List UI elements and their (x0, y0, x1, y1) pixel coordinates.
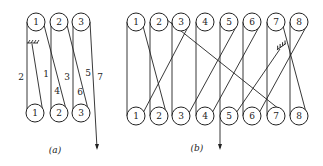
caption-b: (b) (191, 143, 204, 153)
svg-text:6: 6 (249, 111, 255, 121)
pulley-b-top-5: 5 (220, 13, 238, 31)
segment-label: 7 (97, 72, 103, 82)
svg-text:2: 2 (56, 108, 62, 118)
svg-text:1: 1 (32, 108, 38, 118)
pulley-b-top-4: 4 (196, 13, 214, 31)
pulley-a-bottom-1: 1 (26, 104, 44, 122)
arrow-head-icon (218, 144, 222, 150)
pulley-b-bottom-6: 6 (243, 107, 261, 125)
pulley-b-top-7: 7 (267, 13, 285, 31)
segment-label: 2 (18, 72, 24, 82)
pulley-a-bottom-3: 3 (72, 104, 90, 122)
pulley-b-top-8: 8 (290, 13, 308, 31)
pulley-a-top-1: 1 (27, 13, 45, 31)
pulley-b-bottom-4: 4 (196, 107, 214, 125)
svg-text:3: 3 (78, 17, 84, 27)
svg-text:4: 4 (202, 111, 208, 121)
segment-label: 3 (64, 72, 70, 82)
figure-b: 1 2 3 4 5 6 7 8 1 2 3 4 5 6 7 8 (b) (127, 13, 308, 153)
anchor-hatch-icon (275, 41, 287, 50)
svg-text:3: 3 (78, 108, 84, 118)
svg-text:2: 2 (156, 17, 162, 27)
segment-label: 1 (43, 69, 49, 79)
svg-text:8: 8 (296, 111, 302, 121)
svg-text:7: 7 (273, 111, 279, 121)
pulley-b-bottom-2: 2 (150, 107, 168, 125)
segment-label: 4 (54, 86, 60, 96)
svg-text:8: 8 (296, 17, 302, 27)
svg-text:2: 2 (56, 17, 62, 27)
svg-text:1: 1 (133, 111, 139, 121)
svg-text:6: 6 (249, 17, 255, 27)
svg-text:2: 2 (156, 111, 162, 121)
pulley-b-bottom-1: 1 (127, 107, 145, 125)
diagram-canvas: 1 2 3 1 2 3 2 1 4 3 6 5 7 (a) (0, 0, 323, 166)
svg-text:4: 4 (202, 17, 208, 27)
pulley-b-bottom-7: 7 (267, 107, 285, 125)
svg-text:5: 5 (226, 111, 232, 121)
pulley-b-top-1: 1 (127, 13, 145, 31)
pulley-a-top-2: 2 (50, 13, 68, 31)
svg-text:1: 1 (33, 17, 39, 27)
caption-a: (a) (49, 145, 62, 155)
pulley-a-top-3: 3 (72, 13, 90, 31)
svg-text:3: 3 (178, 17, 184, 27)
arrow-head-icon (95, 144, 99, 150)
svg-text:5: 5 (226, 17, 232, 27)
svg-text:3: 3 (178, 111, 184, 121)
pulley-b-top-2: 2 (150, 13, 168, 31)
segment-label: 6 (77, 87, 83, 97)
segment-label: 5 (85, 68, 91, 78)
pulley-a-bottom-2: 2 (50, 104, 68, 122)
pulley-b-top-6: 6 (243, 13, 261, 31)
pulley-b-bottom-5: 5 (220, 107, 238, 125)
svg-text:1: 1 (133, 17, 139, 27)
pulley-b-bottom-3: 3 (172, 107, 190, 125)
svg-text:7: 7 (273, 17, 279, 27)
figure-a: 1 2 3 1 2 3 2 1 4 3 6 5 7 (a) (18, 13, 103, 155)
pulley-diagram: 1 2 3 1 2 3 2 1 4 3 6 5 7 (a) (0, 0, 323, 166)
pulley-b-bottom-8: 8 (290, 107, 308, 125)
pulley-b-top-3: 3 (172, 13, 190, 31)
